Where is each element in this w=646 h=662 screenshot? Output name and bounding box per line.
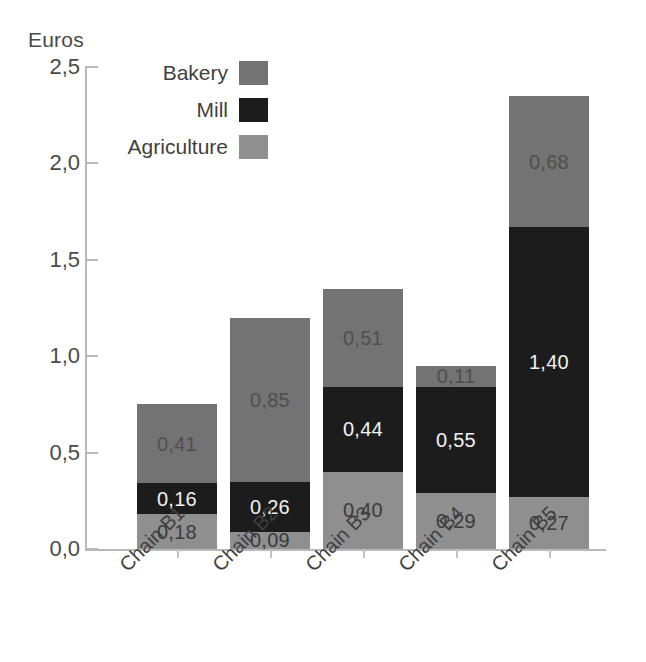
bar-segment-value: 0,41 [157, 434, 197, 454]
bar-segment-bakery[interactable]: 0,85 [230, 318, 310, 482]
bar-segment-mill[interactable]: 1,40 [509, 227, 589, 497]
bar-segment-value: 0,55 [436, 430, 476, 450]
x-axis-tick [363, 549, 365, 558]
bar-segment-value: 0,85 [250, 390, 290, 410]
bar-chain-b3[interactable]: 0,510,440,40 [323, 40, 403, 549]
y-axis-tick-label: 0,0 [20, 536, 80, 562]
bar-chain-b4[interactable]: 0,110,550,29 [416, 40, 496, 549]
bar-segment-value: 0,11 [437, 366, 476, 386]
bar-segment-bakery[interactable]: 0,68 [509, 96, 589, 227]
y-axis-tick-label: 1,5 [20, 247, 80, 273]
y-axis-title: Euros [28, 28, 84, 52]
bar-segment-bakery[interactable]: 0,11 [416, 366, 496, 387]
bar-segment-value: 0,51 [343, 328, 383, 348]
x-axis-tick [549, 549, 551, 558]
bar-segment-mill[interactable]: 0,44 [323, 387, 403, 472]
bar-segment-bakery[interactable]: 0,41 [137, 404, 217, 483]
x-axis-tick [456, 549, 458, 558]
stacked-bar-chart: Euros 2,52,01,51,00,50,0 Bakery Mill Agr… [0, 0, 646, 662]
bar-segment-value: 0,68 [529, 152, 569, 172]
x-axis-tick [177, 549, 179, 558]
y-axis-tick-label: 0,5 [20, 440, 80, 466]
y-axis-tick-label: 2,0 [20, 150, 80, 176]
bar-segment-value: 0,44 [343, 419, 383, 439]
plot-area: 0,410,160,180,850,260,090,510,440,400,11… [85, 40, 606, 549]
bar-chain-b2[interactable]: 0,850,260,09 [230, 40, 310, 549]
y-axis-tick-label: 1,0 [20, 343, 80, 369]
bar-segment-value: 1,40 [529, 352, 569, 372]
y-axis-tick-label: 2,5 [20, 54, 80, 80]
bar-chain-b5[interactable]: 0,681,400,27 [509, 40, 589, 549]
bar-segment-mill[interactable]: 0,55 [416, 387, 496, 493]
bar-chain-b1[interactable]: 0,410,160,18 [137, 40, 217, 549]
bar-segment-bakery[interactable]: 0,51 [323, 289, 403, 387]
